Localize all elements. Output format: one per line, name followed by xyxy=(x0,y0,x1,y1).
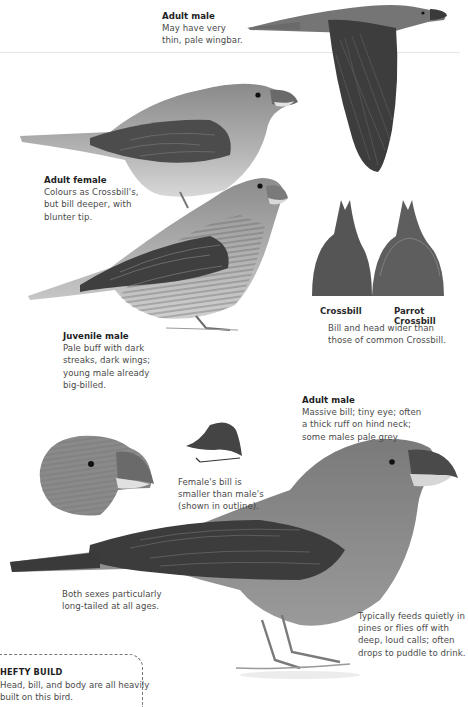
annotation-title: Adult male xyxy=(162,10,272,22)
callout-title: HEFTY BUILD xyxy=(0,667,63,677)
annotation-text: Both sexes particularly long-tailed at a… xyxy=(62,588,192,612)
annotation-text: Colours as Crossbill's, but bill deeper,… xyxy=(44,186,164,223)
flying-male-illustration xyxy=(246,5,447,172)
female-bill-annotation: Female's bill is smaller than male's (sh… xyxy=(178,476,288,513)
adult-female-annotation: Adult female Colours as Crossbill's, but… xyxy=(44,174,164,223)
flying-male-annotation: Adult male May have very thin, pale wing… xyxy=(162,10,272,47)
bill-comparison-annotation: Bill and head wider than those of common… xyxy=(328,322,458,346)
annotation-text: Pale buff with dark streaks, dark wings;… xyxy=(63,342,183,391)
female-bill-illustration xyxy=(186,422,242,462)
callout-text: Head, bill, and body are all heavily bui… xyxy=(0,679,150,703)
annotation-text: Bill and head wider than those of common… xyxy=(328,322,458,346)
crossbill-label: Crossbill xyxy=(320,306,362,316)
annotation-text: Typically feeds quietly in pines or flie… xyxy=(358,610,468,659)
hefty-build-callout: HEFTY BUILD Head, bill, and body are all… xyxy=(0,654,143,707)
annotation-title: Adult female xyxy=(44,174,164,186)
tail-annotation: Both sexes particularly long-tailed at a… xyxy=(62,588,192,612)
female-head-closeup-illustration xyxy=(40,436,154,516)
annotation-title: Juvenile male xyxy=(63,330,183,342)
juvenile-male-annotation: Juvenile male Pale buff with dark streak… xyxy=(63,330,183,391)
annotation-title: Adult male xyxy=(302,394,460,406)
annotation-text: Massive bill; tiny eye; often a thick ru… xyxy=(302,406,460,443)
feeding-annotation: Typically feeds quietly in pines or flie… xyxy=(358,610,468,659)
annotation-text: May have very thin, pale wingbar. xyxy=(162,22,272,46)
annotation-text: Female's bill is smaller than male's (sh… xyxy=(178,476,288,513)
bill-comparison-illustration xyxy=(312,200,444,296)
adult-male-annotation: Adult male Massive bill; tiny eye; often… xyxy=(302,394,460,443)
